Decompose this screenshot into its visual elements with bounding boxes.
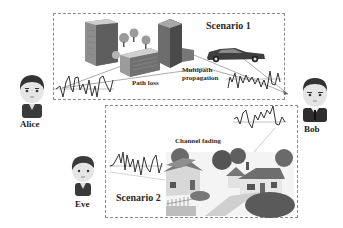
signal-waveform-s1-tx (53, 76, 114, 97)
scenario-1-title: Scenario 1 (206, 21, 251, 32)
scenario-2-title: Scenario 2 (116, 193, 161, 204)
signal-waveform-s2-rx (233, 106, 286, 128)
alice-avatar (14, 70, 50, 118)
low-building (120, 48, 160, 77)
person-avatar-icon (297, 74, 333, 122)
scenario-1-illustration (0, 0, 343, 228)
multipath-label-line2: propagation (182, 75, 218, 82)
person-avatar-icon (14, 70, 50, 118)
eve-avatar (67, 152, 99, 196)
eve-label: Eve (75, 199, 90, 209)
bob-label: Bob (304, 124, 320, 134)
channel-fading-label: Channel fading (175, 138, 221, 145)
car-illustration (207, 48, 265, 62)
signal-waveform-s2-tx (109, 152, 163, 175)
bob-avatar (297, 74, 333, 122)
office-building-left (85, 19, 118, 66)
path-loss-label: Path loss (132, 80, 159, 87)
suburban-houses-illustration (163, 148, 295, 218)
person-avatar-icon (67, 152, 99, 196)
alice-label: Alice (20, 119, 40, 129)
office-tower-right (158, 19, 194, 68)
